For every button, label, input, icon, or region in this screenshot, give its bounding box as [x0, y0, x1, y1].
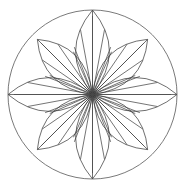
mandala-canvas: [0, 0, 185, 190]
mandala-figure: [0, 0, 185, 190]
